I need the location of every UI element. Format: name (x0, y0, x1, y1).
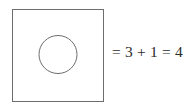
equation-block: = 3 + 1 = 4 (112, 40, 187, 64)
equation-text: = 3 + 1 = 4 (112, 44, 183, 60)
circle-outline (39, 36, 77, 74)
figure-container: = 3 + 1 = 4 (0, 0, 189, 107)
square-outline (13, 10, 104, 102)
